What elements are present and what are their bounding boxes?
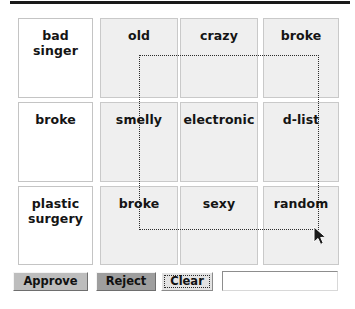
grid-cell-label: d-list	[264, 112, 338, 127]
reject-button[interactable]: Reject	[96, 272, 156, 291]
grid-cell[interactable]: broke	[18, 102, 93, 182]
word-grid: bad singer old crazy broke broke smelly …	[18, 18, 339, 265]
action-toolbar: Approve Reject Clear	[0, 272, 355, 296]
grid-cell-label: broke	[101, 196, 177, 211]
approve-button[interactable]: Approve	[13, 272, 88, 291]
grid-cell[interactable]: crazy	[180, 18, 258, 98]
app-root: bad singer old crazy broke broke smelly …	[0, 0, 355, 309]
grid-cell[interactable]: d-list	[263, 102, 339, 182]
clear-button-label: Clear	[170, 274, 204, 288]
grid-cell-label: smelly	[101, 112, 177, 127]
clear-button[interactable]: Clear	[161, 272, 213, 291]
grid-cell[interactable]: smelly	[100, 102, 178, 182]
grid-cell-label: electronic	[181, 112, 257, 127]
grid-cell[interactable]: sexy	[180, 186, 258, 265]
grid-cell[interactable]: plastic surgery	[18, 186, 93, 265]
grid-cell[interactable]: electronic	[180, 102, 258, 182]
grid-cell-label: sexy	[181, 196, 257, 211]
grid-cell[interactable]: random	[263, 186, 339, 265]
grid-cell-label: bad singer	[19, 28, 92, 58]
tag-text-input[interactable]	[222, 271, 338, 291]
grid-cell[interactable]: old	[100, 18, 178, 98]
grid-cell-label: random	[264, 196, 338, 211]
grid-cell-label: plastic surgery	[19, 196, 92, 226]
grid-cell[interactable]: bad singer	[18, 18, 93, 98]
grid-cell-label: crazy	[181, 28, 257, 43]
grid-cell[interactable]: broke	[263, 18, 339, 98]
grid-cell-label: broke	[264, 28, 338, 43]
top-divider	[10, 1, 350, 4]
grid-cell[interactable]: broke	[100, 186, 178, 265]
grid-cell-label: broke	[19, 112, 92, 127]
grid-cell-label: old	[101, 28, 177, 43]
